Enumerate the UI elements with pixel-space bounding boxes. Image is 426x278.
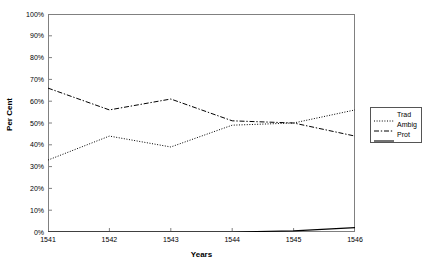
legend-label: Ambig <box>395 121 417 129</box>
plot-area <box>48 14 355 232</box>
legend-label: Prot <box>395 131 410 139</box>
legend-label: Trad <box>395 111 411 119</box>
x-tick-label: 1542 <box>89 236 129 243</box>
y-tick-label: 40% <box>10 141 44 148</box>
y-tick-label: 10% <box>10 207 44 214</box>
y-tick-label: 0% <box>10 229 44 236</box>
legend-swatch-ambig <box>373 121 395 129</box>
x-tick-label: 1545 <box>274 236 314 243</box>
y-tick-label: 60% <box>10 98 44 105</box>
legend-item-prot: Prot <box>373 130 419 140</box>
x-tick-label: 1544 <box>212 236 252 243</box>
x-axis-title: Years <box>48 250 355 259</box>
y-tick-label: 20% <box>10 185 44 192</box>
legend-item-ambig: Ambig <box>373 120 419 130</box>
x-tick-label: 1546 <box>335 236 375 243</box>
series-line-prot <box>48 228 355 232</box>
chart-legend: TradAmbigProt <box>370 107 422 143</box>
line-chart: Per Cent 100%90%80%70%60%50%40%30%20%10%… <box>0 0 426 278</box>
y-tick-label: 50% <box>10 120 44 127</box>
y-tick-label: 100% <box>10 11 44 18</box>
legend-item-trad: Trad <box>373 110 419 120</box>
y-tick-label: 30% <box>10 163 44 170</box>
series-lines <box>48 14 355 232</box>
legend-swatch-prot <box>373 131 395 139</box>
y-tick-label: 80% <box>10 54 44 61</box>
y-tick-label: 90% <box>10 32 44 39</box>
series-line-trad <box>48 110 355 160</box>
x-tick-label: 1541 <box>28 236 68 243</box>
x-tick-label: 1543 <box>151 236 191 243</box>
series-line-ambig <box>48 88 355 136</box>
y-tick-label: 70% <box>10 76 44 83</box>
legend-swatch-trad <box>373 111 395 119</box>
